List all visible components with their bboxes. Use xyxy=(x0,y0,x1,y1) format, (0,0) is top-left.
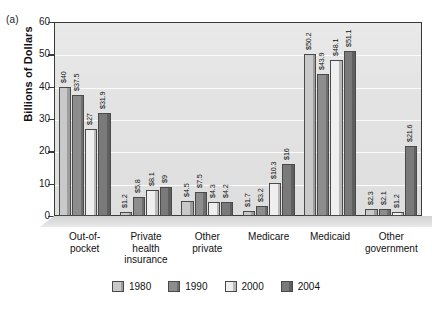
y-tick-label: 40 xyxy=(16,81,50,92)
gridline xyxy=(55,152,421,153)
plot-area xyxy=(54,22,422,216)
gridline xyxy=(55,55,421,56)
y-tick-label: 60 xyxy=(16,16,50,27)
legend-label: 1980 xyxy=(129,281,151,292)
gridline xyxy=(55,120,421,121)
legend-label: 1990 xyxy=(185,281,207,292)
x-category-label: Medicare xyxy=(238,231,299,243)
x-category-label: Medicaid xyxy=(299,231,360,243)
x-category-label: Privatehealthinsurance xyxy=(115,231,176,266)
x-category-label: Out-of-pocket xyxy=(54,231,115,254)
y-tick-label: 20 xyxy=(16,145,50,156)
legend-swatch xyxy=(112,281,124,292)
y-tick-label: 50 xyxy=(16,48,50,59)
legend-item[interactable]: 1990 xyxy=(168,281,207,292)
y-tick-label: 30 xyxy=(16,113,50,124)
legend-item[interactable]: 2004 xyxy=(281,281,320,292)
legend-swatch xyxy=(168,281,180,292)
y-tick-label: 0 xyxy=(16,210,50,221)
chart-figure: (a) Billions of Dollars 0102030405060 $4… xyxy=(0,0,432,313)
axis-floor xyxy=(40,216,432,227)
legend: 1980199020002004 xyxy=(0,281,432,292)
legend-item[interactable]: 1980 xyxy=(112,281,151,292)
legend-label: 2000 xyxy=(242,281,264,292)
legend-item[interactable]: 2000 xyxy=(225,281,264,292)
legend-swatch xyxy=(281,281,293,292)
x-category-label: Otherprivate xyxy=(177,231,238,254)
y-tick-label: 10 xyxy=(16,178,50,189)
legend-label: 2004 xyxy=(298,281,320,292)
legend-swatch xyxy=(225,281,237,292)
gridline xyxy=(55,185,421,186)
x-category-label: Othergovernment xyxy=(361,231,422,254)
gridline xyxy=(55,88,421,89)
